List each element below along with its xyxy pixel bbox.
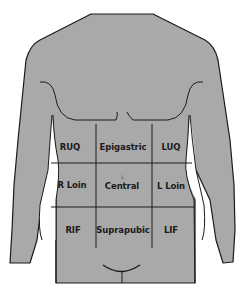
region-label-lif: LIF — [164, 225, 178, 235]
region-label-rif: RIF — [65, 225, 80, 235]
region-label-r-loin: R Loin — [57, 180, 86, 190]
region-label-suprapubic: Suprapubic — [96, 225, 149, 235]
region-label-central: Central — [105, 181, 139, 191]
region-label-ruq: RUQ — [60, 142, 80, 152]
region-label-epigastric: Epigastric — [100, 142, 147, 152]
region-label-luq: LUQ — [162, 142, 181, 152]
region-label-l-loin: L Loin — [157, 181, 185, 191]
